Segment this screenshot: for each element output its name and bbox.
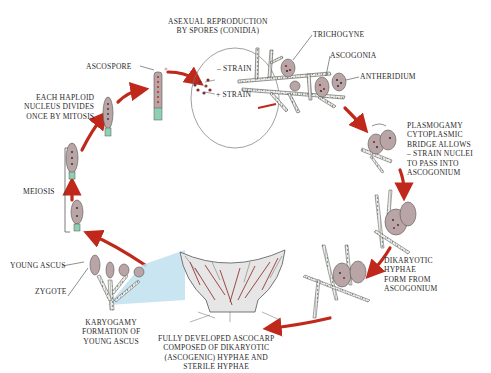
label-line: (ASCOGENIC) HYPHAE AND bbox=[158, 353, 274, 362]
label-karyogamy: KARYOGAMY FORMATION OF YOUNG ASCUS bbox=[82, 318, 140, 346]
trichogyne-cell bbox=[281, 59, 295, 77]
label-line: ASEXUAL REPRODUCTION bbox=[168, 17, 268, 26]
label-line: EACH HAPLOID bbox=[24, 93, 94, 102]
label-line: STERILE HYPHAE bbox=[158, 362, 274, 371]
label-line: DIKARYOTIC bbox=[384, 256, 437, 265]
mycelium-hyphae bbox=[238, 48, 345, 113]
label-line: PLASMOGAMY bbox=[407, 121, 473, 130]
label-ascospore: ASCOSPORE bbox=[86, 62, 132, 71]
mitosis-ascus bbox=[103, 97, 113, 136]
diagram-artwork bbox=[0, 0, 491, 373]
label-line: FULLY DEVELOPED ASCOCARP bbox=[158, 334, 274, 343]
label-line: – STRAIN NUCLEI bbox=[407, 149, 473, 158]
label-line: KARYOGAMY bbox=[82, 318, 140, 327]
arrow-to-meiosis bbox=[92, 235, 145, 265]
dikaryotic-hyphae-stage bbox=[303, 245, 370, 318]
label-line: YOUNG ASCUS bbox=[82, 337, 140, 346]
label-antheridium: ANTHERIDIUM bbox=[360, 72, 416, 81]
label-line: FORMATION OF bbox=[82, 327, 140, 336]
arrow-to-mitosis bbox=[82, 118, 102, 150]
label-mitosis: EACH HAPLOID NUCLEUS DIVIDES ONCE BY MIT… bbox=[24, 93, 94, 121]
label-line: FORM FROM bbox=[384, 275, 437, 284]
dikaryon-stage bbox=[374, 190, 416, 254]
ascogonium-cell bbox=[315, 77, 329, 97]
label-meiosis: MEIOSIS bbox=[23, 187, 55, 196]
label-plasmogamy: PLASMOGAMY CYTOPLASMIC BRIDGE ALLOWS – S… bbox=[407, 121, 473, 177]
label-line: TO PASS INTO bbox=[407, 159, 473, 168]
label-trichogyne: TRICHOGYNE bbox=[313, 30, 364, 39]
plasmogamy-stage bbox=[361, 124, 396, 173]
meiosis-asci bbox=[65, 143, 83, 232]
label-line: ASCOGONIUM bbox=[384, 284, 437, 293]
label-line: CYTOPLASMIC bbox=[407, 130, 473, 139]
arrow-to-ascocarp bbox=[272, 318, 330, 328]
label-ascogonia: ASCOGONIA bbox=[330, 51, 377, 60]
label-line: BY SPORES (CONIDIA) bbox=[168, 26, 268, 35]
label-dikaryotic-hyphae: DIKARYOTIC HYPHAE FORM FROM ASCOGONIUM bbox=[384, 256, 437, 294]
germinating-conidium bbox=[258, 104, 276, 108]
label-line: COMPOSED OF DIKARYOTIC bbox=[158, 343, 274, 352]
label-line: ONCE BY MITOSIS bbox=[24, 112, 94, 121]
label-line: NUCLEUS DIVIDES bbox=[24, 102, 94, 111]
label-line: BRIDGE ALLOWS bbox=[407, 140, 473, 149]
arrow-to-ascospore bbox=[118, 90, 140, 102]
antheridium-cell bbox=[332, 73, 346, 91]
label-ascocarp: FULLY DEVELOPED ASCOCARP COMPOSED OF DIK… bbox=[158, 334, 274, 372]
ascocarp bbox=[180, 250, 285, 322]
arrow-to-dikaryon-1 bbox=[400, 170, 404, 192]
ascospore-ascus bbox=[154, 72, 162, 120]
arrow-to-conidia bbox=[168, 72, 196, 80]
label-asexual-reproduction: ASEXUAL REPRODUCTION BY SPORES (CONIDIA) bbox=[168, 17, 268, 36]
label-line: HYPHAE bbox=[384, 265, 437, 274]
arrow-to-plasmogamy bbox=[345, 108, 362, 126]
label-minus-strain: – STRAIN bbox=[217, 64, 252, 73]
label-zygote: ZYGOTE bbox=[35, 287, 67, 296]
ascomycete-life-cycle-diagram: ASEXUAL REPRODUCTION BY SPORES (CONIDIA)… bbox=[0, 0, 491, 373]
label-young-ascus: YOUNG ASCUS bbox=[10, 261, 66, 270]
label-line: ASCOGONIUM bbox=[407, 168, 473, 177]
label-plus-strain: + STRAIN bbox=[216, 90, 251, 99]
